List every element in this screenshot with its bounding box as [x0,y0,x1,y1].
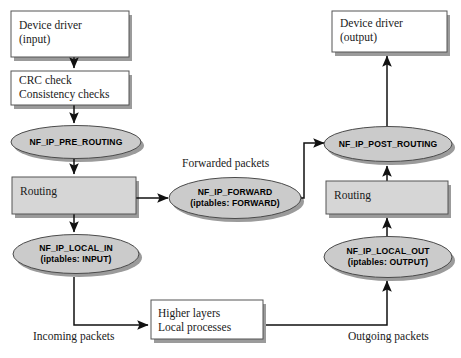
node-nf-ip-post-routing [324,127,452,162]
node-nf-ip-pre-routing [11,126,141,159]
node-higher-layers [151,300,263,339]
edge-higherlayers-to-localout [266,281,387,325]
node-routing-out [326,181,448,214]
node-nf-ip-local-out [324,237,452,278]
edge-localin-to-higherlayers [74,277,148,325]
netfilter-flow-diagram: Device driver (input) CRC check Consiste… [0,0,461,358]
edge-forward-to-postrouting [300,143,324,198]
node-routing-in [12,177,136,214]
diagram-shapes-layer [0,0,461,358]
node-device-driver-input [11,11,129,57]
node-crc-check [11,71,129,105]
node-device-driver-output [332,11,447,52]
node-nf-ip-forward [169,178,301,219]
node-nf-ip-local-in [13,235,139,274]
